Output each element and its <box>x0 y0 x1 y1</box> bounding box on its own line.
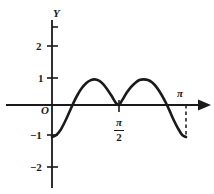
origin-label: O <box>41 105 49 116</box>
y-tick-label-2: 2 <box>36 41 42 52</box>
fraction-denominator: 2 <box>110 132 128 144</box>
graph-figure: Y O π 2 1 −1 −2 π 2 <box>0 0 214 194</box>
y-axis-label: Y <box>53 8 60 19</box>
x-axis-arrowhead <box>198 100 211 111</box>
y-tick-label-negative-2: −2 <box>30 162 42 173</box>
x-axis-pi-label: π <box>177 88 183 99</box>
fraction-numerator: π <box>110 117 128 129</box>
x-tick-label-pi-over-2: π 2 <box>110 117 128 143</box>
y-tick-label-1: 1 <box>38 73 44 84</box>
y-tick-label-negative-1: −1 <box>30 130 42 141</box>
